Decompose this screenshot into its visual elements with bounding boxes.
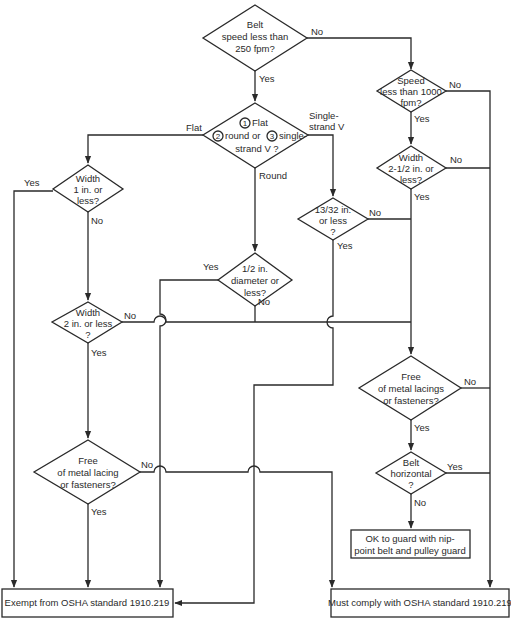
- d4-line-3: less?: [400, 174, 422, 185]
- exempt-label: Exempt from OSHA standard 1910.219: [5, 597, 170, 608]
- outcome-exempt-box: Exempt from OSHA standard 1910.219: [2, 589, 173, 617]
- d1-no-connector: [307, 38, 411, 69]
- d2-round-label: Round: [259, 170, 287, 181]
- svg-text:2: 2: [216, 132, 221, 141]
- d1-line-2: speed less than: [222, 31, 289, 42]
- comply-label: Must comply with OSHA standard 1910.219: [328, 597, 511, 608]
- d5-line-1: Width: [76, 173, 100, 184]
- d8-yes-label: Yes: [91, 347, 107, 358]
- guard-line-2: point belt and pulley guard: [354, 545, 465, 556]
- d9-yes-label: Yes: [91, 506, 107, 517]
- d7-no-label: No: [258, 296, 270, 307]
- d8-line-3: ?: [85, 329, 90, 340]
- d8-line-2: 2 in. or less: [64, 318, 113, 329]
- d4-no-label: No: [450, 154, 462, 165]
- d10-line-2: of metal lacings: [378, 383, 444, 394]
- d7-yes-label: Yes: [203, 261, 219, 272]
- d11-line-3: ?: [408, 479, 413, 490]
- outcome-comply-box: Must comply with OSHA standard 1910.219: [328, 589, 511, 617]
- outcome-guard-box: OK to guard with nip- point belt and pul…: [351, 530, 470, 558]
- d7-yes-connector: [160, 280, 218, 587]
- d4-line-1: Width: [399, 152, 423, 163]
- d5-line-3: less?: [77, 195, 99, 206]
- d2-flat-connector: [88, 135, 203, 163]
- decision-width-1: Width 1 in. or less?: [53, 165, 123, 212]
- d3-line-2: less than 1000: [380, 86, 442, 97]
- decision-belt-type: 1 Flat 2 round or 3 single- strand V ?: [203, 103, 308, 168]
- d10-yes-label: Yes: [414, 422, 430, 433]
- d11-yes-label: Yes: [447, 461, 463, 472]
- d3-no-label: No: [449, 79, 461, 90]
- d3-line-1: Speed: [397, 75, 424, 86]
- decision-speed-1000: Speed less than 1000 fpm?: [377, 70, 446, 112]
- decision-free-of-lacings-right: Free of metal lacings or fasteners?: [359, 356, 461, 420]
- d1-no-label: No: [311, 26, 323, 37]
- d2-single-label-2: strand V: [309, 121, 345, 132]
- d9-line-2: of metal lacing: [57, 467, 118, 478]
- d6-yes-label: Yes: [337, 240, 353, 251]
- decision-belt-speed-250: Belt speed less than 250 fpm?: [203, 5, 307, 71]
- d5-line-2: 1 in. or: [73, 184, 102, 195]
- svg-text:3: 3: [270, 132, 275, 141]
- d5-yes-label: Yes: [24, 177, 40, 188]
- d9-line-3: or fasteners?: [60, 479, 115, 490]
- d4-yes-label: Yes: [414, 191, 430, 202]
- svg-text:1: 1: [243, 119, 248, 128]
- d3-no-connector: [446, 91, 490, 587]
- d2-single-connector: [308, 135, 333, 196]
- d1-line-1: Belt: [247, 19, 264, 30]
- d6-line-3: ?: [330, 226, 335, 237]
- d1-line-3: 250 fpm?: [235, 43, 275, 54]
- d2-flat-label: Flat: [186, 122, 202, 133]
- d2-line-3: single-: [279, 130, 307, 141]
- d9-line-1: Free: [78, 455, 98, 466]
- d7-line-1: 1/2 in.: [242, 263, 268, 274]
- decision-width-2: Width 2 in. or less ?: [52, 302, 122, 343]
- d2-line-4: strand V ?: [235, 143, 278, 154]
- d8-line-1: Width: [76, 307, 100, 318]
- d8-no-label: No: [124, 310, 136, 321]
- d9-no-label: No: [141, 459, 153, 470]
- decision-belt-horizontal: Belt horizontal ?: [376, 452, 446, 494]
- d5-yes-connector: [14, 191, 53, 587]
- d3-line-3: fpm?: [400, 97, 421, 108]
- d6-line-2: or less: [319, 215, 347, 226]
- d9-no-connector: [140, 466, 332, 587]
- d5-no-label: No: [91, 215, 103, 226]
- d11-line-2: horizontal: [390, 468, 431, 479]
- decision-half-inch-diameter: 1/2 in. diameter or less?: [218, 253, 292, 306]
- d7-line-2: diameter or: [231, 275, 279, 286]
- d10-no-label: No: [464, 376, 476, 387]
- d2-line-2: round or: [225, 130, 260, 141]
- d4-line-2: 2-1/2 in. or: [388, 163, 433, 174]
- decision-13-32: 13/32 in. or less ?: [298, 198, 368, 240]
- d2-line-1: Flat: [252, 117, 268, 128]
- decision-free-of-lacing-left: Free of metal lacing or fasteners?: [34, 440, 140, 504]
- d6-no-label: No: [369, 207, 381, 218]
- d10-line-1: Free: [401, 371, 421, 382]
- d2-single-label-1: Single-: [309, 110, 339, 121]
- osha-belt-flowchart: Belt speed less than 250 fpm? 1 Flat 2 r…: [0, 0, 511, 631]
- decision-width-2-5: Width 2-1/2 in. or less?: [377, 146, 446, 189]
- d3-yes-label: Yes: [414, 113, 430, 124]
- d6-line-1: 13/32 in.: [315, 204, 351, 215]
- d11-no-label: No: [414, 497, 426, 508]
- d10-line-3: or fasteners?: [383, 395, 438, 406]
- guard-line-1: OK to guard with nip-: [365, 533, 454, 544]
- d11-line-1: Belt: [403, 457, 420, 468]
- d1-yes-label: Yes: [259, 73, 275, 84]
